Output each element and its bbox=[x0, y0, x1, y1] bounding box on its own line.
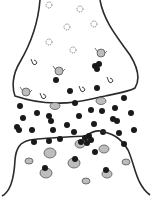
neurotransmitter bbox=[112, 105, 118, 111]
bound-receptor bbox=[78, 139, 84, 145]
neurotransmitter bbox=[72, 156, 78, 162]
neurotransmitter bbox=[131, 127, 137, 133]
receptor-vesicle bbox=[44, 148, 56, 158]
docked-vesicle bbox=[55, 67, 63, 75]
empty-vesicle bbox=[91, 21, 97, 27]
neurotransmitter bbox=[16, 127, 22, 133]
neurotransmitter bbox=[64, 122, 70, 128]
receptor-vesicle bbox=[99, 145, 109, 153]
neurotransmitter bbox=[67, 88, 73, 94]
neurotransmitter bbox=[53, 77, 59, 83]
neurotransmitter bbox=[72, 100, 78, 106]
synapse-diagram bbox=[0, 0, 154, 197]
empty-vesicle bbox=[70, 47, 76, 53]
neurotransmitter bbox=[76, 113, 82, 119]
neurotransmitter bbox=[114, 118, 120, 124]
receptor-vesicle bbox=[82, 178, 90, 184]
neurotransmitter bbox=[48, 118, 54, 124]
bound-receptor bbox=[121, 141, 127, 147]
empty-vesicle bbox=[46, 39, 52, 45]
neurotransmitter bbox=[34, 110, 40, 116]
neurotransmitter bbox=[103, 167, 109, 173]
empty-vesicle bbox=[77, 6, 83, 12]
bound-receptor bbox=[92, 149, 98, 155]
fused-vesicle bbox=[96, 98, 106, 105]
neurotransmitter bbox=[50, 127, 56, 133]
docked-vesicle bbox=[22, 88, 30, 96]
neurotransmitter bbox=[128, 110, 134, 116]
receptor-vesicle bbox=[122, 159, 130, 165]
empty-vesicle bbox=[64, 24, 70, 30]
docked-vesicle bbox=[97, 49, 105, 57]
neurotransmitter bbox=[91, 121, 97, 127]
bound-receptor bbox=[84, 140, 90, 146]
fused-vesicle bbox=[50, 103, 60, 110]
neurotransmitter bbox=[20, 115, 26, 121]
neurotransmitter bbox=[71, 129, 77, 135]
empty-vesicle bbox=[46, 2, 52, 8]
neurotransmitter bbox=[94, 85, 100, 91]
bound-receptor bbox=[46, 138, 52, 144]
neurotransmitter bbox=[121, 95, 127, 101]
neurotransmitter bbox=[29, 127, 35, 133]
neurotransmitter bbox=[99, 108, 105, 114]
neurotransmitter bbox=[116, 130, 122, 136]
bound-receptor bbox=[57, 136, 63, 142]
neurotransmitter bbox=[17, 103, 23, 109]
neurotransmitter bbox=[42, 165, 48, 171]
neurotransmitter bbox=[94, 66, 100, 72]
bound-receptor bbox=[31, 139, 37, 145]
receptor-vesicle bbox=[25, 158, 33, 164]
neurotransmitter bbox=[88, 107, 94, 113]
